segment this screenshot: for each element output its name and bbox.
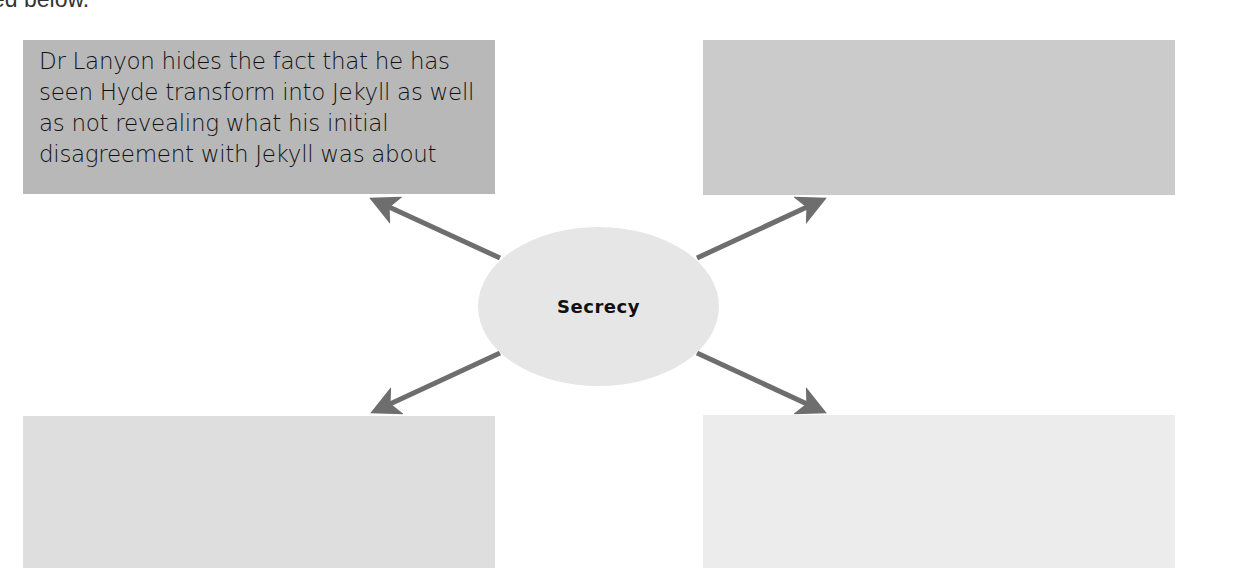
center-node-label: Secrecy — [478, 227, 719, 386]
